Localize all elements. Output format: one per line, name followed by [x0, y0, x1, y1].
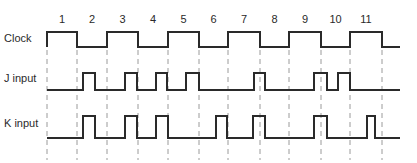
clock-label: Clock: [4, 32, 32, 44]
period-number: 10: [329, 13, 341, 25]
period-number: 4: [150, 13, 156, 25]
period-number: 2: [89, 13, 95, 25]
period-number: 8: [271, 13, 277, 25]
period-number: 5: [180, 13, 186, 25]
k-input-label: K input: [4, 117, 38, 129]
clock-waveform: [47, 32, 400, 47]
period-number: 1: [59, 13, 65, 25]
period-number: 11: [360, 13, 371, 25]
j-input-waveform: [47, 73, 400, 90]
timing-diagram: 1234567891011 Clock J input K input: [0, 0, 417, 163]
dashed-gridlines: [47, 50, 382, 160]
period-number: 3: [119, 13, 125, 25]
period-number: 7: [241, 13, 247, 25]
period-number: 9: [302, 13, 308, 25]
period-number: 6: [210, 13, 216, 25]
j-input-label: J input: [4, 72, 36, 84]
k-input-waveform: [47, 116, 400, 138]
